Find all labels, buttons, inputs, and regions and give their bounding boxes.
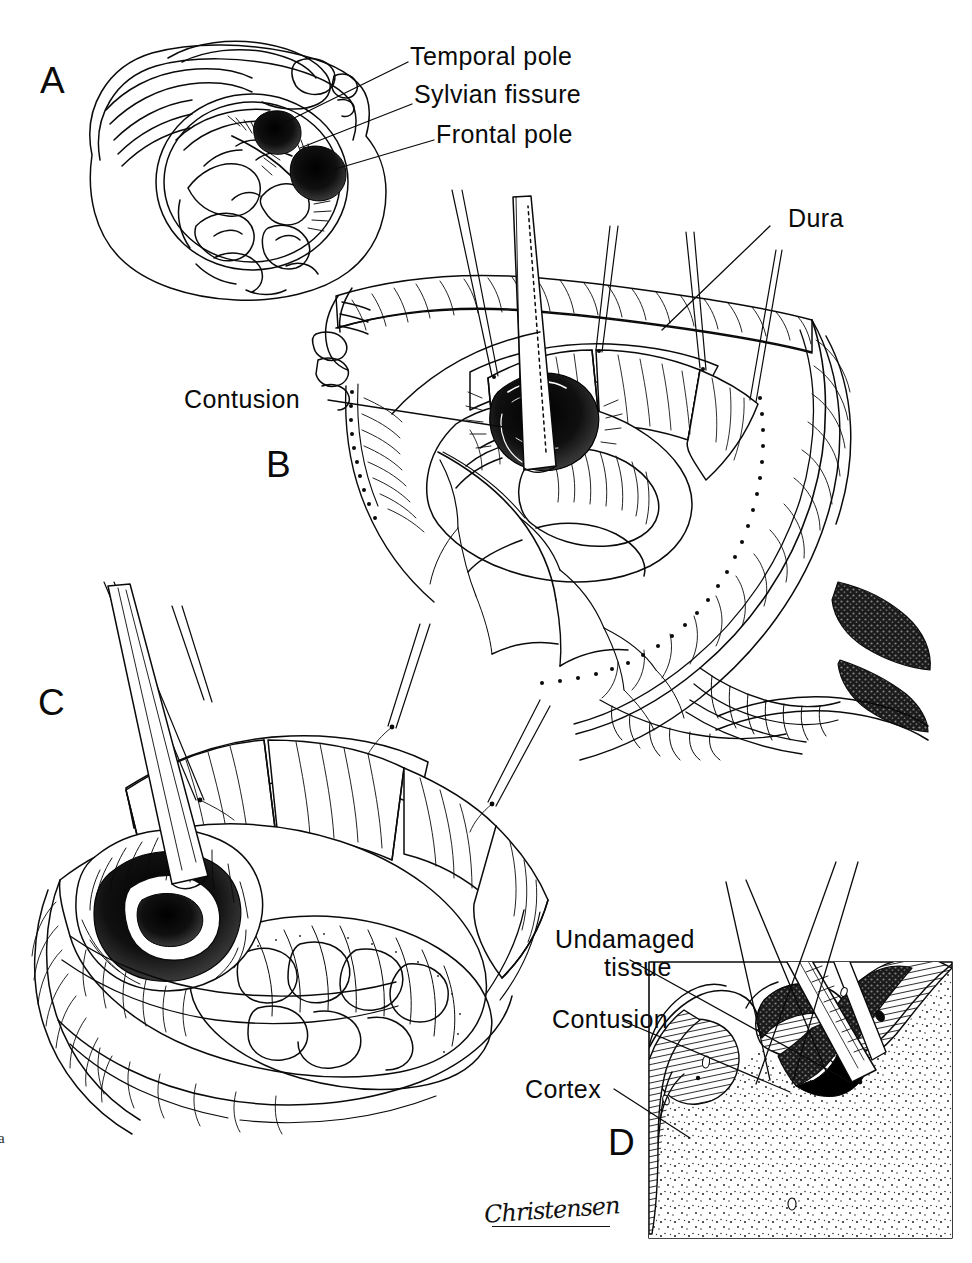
label-contusion-d: Contusion: [552, 1005, 668, 1033]
panel-letter-c: C: [38, 682, 65, 724]
margin-mark: a: [0, 1130, 5, 1147]
panel-b-artwork: [313, 190, 931, 760]
illustration-artwork: [0, 0, 972, 1263]
label-undamaged-tissue-line2: tissue: [604, 953, 672, 981]
label-sylvian-fissure: Sylvian fissure: [414, 80, 581, 108]
illustration-page: A Temporal pole Sylvian fissure Frontal …: [0, 0, 972, 1263]
panel-letter-b: B: [266, 444, 291, 486]
label-temporal-pole: Temporal pole: [410, 42, 572, 70]
label-dura: Dura: [788, 204, 844, 232]
panel-letter-d: D: [608, 1122, 635, 1164]
label-cortex: Cortex: [525, 1075, 601, 1103]
panel-letter-a: A: [40, 60, 65, 102]
panel-a-artwork: [90, 41, 434, 300]
signature-underline: [492, 1226, 610, 1227]
panel-c-artwork: [32, 582, 550, 1134]
panel-d-artwork: [614, 862, 952, 1238]
label-frontal-pole: Frontal pole: [436, 120, 573, 148]
label-contusion-b: Contusion: [184, 385, 300, 413]
label-undamaged-tissue-line1: Undamaged: [555, 925, 695, 953]
